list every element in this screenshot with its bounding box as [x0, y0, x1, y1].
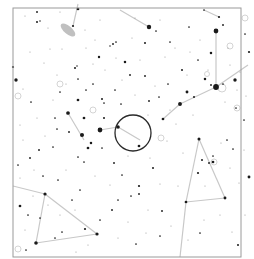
star-icon	[72, 25, 74, 27]
star-icon	[144, 75, 146, 77]
star-icon	[186, 91, 189, 94]
faint-star-icon	[84, 29, 85, 30]
star-icon	[112, 43, 114, 45]
star-icon	[147, 25, 151, 29]
star-icon	[34, 241, 38, 245]
star-icon	[85, 89, 87, 91]
faint-star-icon	[220, 142, 221, 143]
star-icon	[57, 179, 59, 181]
faint-star-icon	[44, 135, 45, 136]
star-icon	[181, 69, 183, 71]
star-icon	[84, 228, 86, 230]
star-icon	[233, 78, 236, 81]
faint-star-icon	[109, 184, 110, 185]
star-icon	[203, 9, 205, 11]
star-icon	[210, 52, 213, 55]
faint-star-icon	[24, 15, 25, 16]
star-icon	[36, 21, 38, 23]
faint-star-icon	[52, 99, 53, 100]
star-icon	[111, 209, 113, 211]
star-icon	[76, 65, 78, 67]
faint-star-icon	[177, 185, 178, 186]
faint-star-icon	[131, 37, 132, 38]
faint-star-icon	[245, 95, 246, 96]
star-chart[interactable]	[0, 0, 254, 259]
star-icon	[138, 145, 141, 148]
faint-star-icon	[169, 109, 170, 110]
faint-star-icon	[187, 239, 188, 240]
star-icon	[121, 174, 123, 176]
faint-star-icon	[47, 204, 48, 205]
faint-star-icon	[115, 57, 116, 58]
star-icon	[129, 74, 131, 76]
faint-star-icon	[134, 94, 135, 95]
star-icon	[101, 98, 103, 100]
star-icon	[79, 189, 81, 191]
star-icon	[226, 139, 228, 141]
star-icon	[222, 83, 224, 85]
star-icon	[178, 102, 182, 106]
faint-star-icon	[231, 231, 232, 232]
faint-star-icon	[147, 209, 148, 210]
faint-star-icon	[199, 39, 200, 40]
faint-star-icon	[159, 19, 160, 20]
star-icon	[66, 111, 70, 115]
star-icon	[135, 243, 137, 245]
faint-star-icon	[43, 62, 44, 63]
star-icon	[161, 210, 163, 212]
star-icon	[30, 101, 32, 103]
star-icon	[235, 107, 237, 109]
star-icon	[148, 100, 150, 102]
faint-star-icon	[99, 19, 100, 20]
faint-star-icon	[24, 229, 25, 230]
star-icon	[68, 131, 70, 133]
star-icon	[19, 205, 22, 208]
star-icon	[114, 89, 116, 91]
faint-star-icon	[49, 48, 50, 49]
star-icon	[98, 56, 100, 58]
star-icon	[25, 249, 27, 251]
faint-star-icon	[56, 74, 57, 75]
star-icon	[54, 117, 56, 119]
faint-star-icon	[204, 185, 205, 186]
faint-star-icon	[59, 214, 60, 215]
faint-star-icon	[74, 209, 75, 210]
star-icon	[92, 83, 94, 85]
star-icon	[83, 117, 86, 120]
star-icon	[244, 33, 246, 35]
star-icon	[17, 164, 19, 166]
star-icon	[90, 142, 93, 145]
star-icon	[14, 78, 17, 81]
star-icon	[232, 148, 234, 150]
star-icon	[185, 201, 188, 204]
faint-star-icon	[236, 89, 237, 90]
star-icon	[59, 91, 61, 93]
star-icon	[29, 157, 31, 159]
faint-star-icon	[139, 59, 140, 60]
faint-star-icon	[174, 47, 175, 48]
faint-star-icon	[149, 157, 150, 158]
star-icon	[248, 51, 250, 53]
star-icon	[155, 30, 157, 32]
star-icon	[144, 42, 146, 44]
star-icon	[197, 172, 199, 174]
faint-star-icon	[134, 17, 135, 18]
faint-star-icon	[239, 71, 240, 72]
star-icon	[197, 137, 200, 140]
star-icon	[117, 199, 119, 201]
star-icon	[120, 103, 122, 105]
star-icon	[56, 128, 58, 130]
faint-star-icon	[22, 139, 23, 140]
star-icon	[212, 161, 215, 164]
star-icon	[197, 59, 199, 61]
faint-star-icon	[203, 219, 204, 220]
faint-star-icon	[127, 221, 128, 222]
faint-star-icon	[22, 88, 23, 89]
sky-map-canvas[interactable]	[0, 0, 254, 259]
faint-star-icon	[75, 251, 76, 252]
faint-star-icon	[104, 69, 105, 70]
star-icon	[204, 78, 207, 81]
star-icon	[103, 102, 105, 104]
faint-star-icon	[224, 101, 225, 102]
star-icon	[39, 20, 41, 22]
